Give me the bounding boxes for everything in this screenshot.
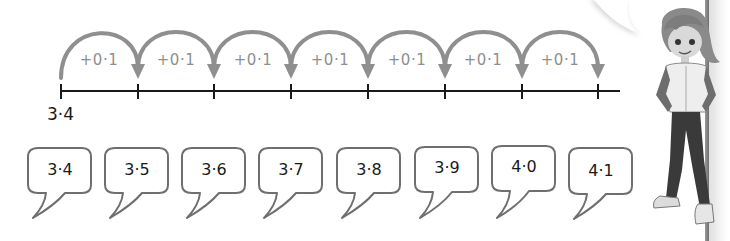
speech-bubble: 3·9 — [416, 146, 478, 192]
counting-diagram: +0·1 +0·1 +0·1 +0·1 +0·1 +0·1 +0·1 3·4 3… — [0, 0, 730, 241]
bubble-value: 3·4 — [29, 160, 91, 179]
bubble-value: 3·6 — [183, 160, 245, 179]
girl-character-icon — [640, 0, 730, 241]
bubble-value: 3·8 — [338, 160, 400, 179]
bubble-value: 3·7 — [260, 160, 322, 179]
speech-bubble: 4·0 — [493, 145, 555, 191]
speech-bubble: 3·5 — [106, 148, 168, 194]
bubble-value: 3·9 — [416, 158, 478, 177]
speech-bubble: 3·4 — [29, 148, 91, 194]
speech-bubble: 3·7 — [260, 148, 322, 194]
bubble-value: 4·0 — [493, 157, 555, 176]
speech-bubbles — [0, 0, 730, 241]
speech-bubble: 4·1 — [570, 149, 632, 195]
speech-bubble: 3·6 — [183, 148, 245, 194]
bubble-value: 3·5 — [106, 160, 168, 179]
bubble-value: 4·1 — [570, 161, 632, 180]
speech-bubble: 3·8 — [338, 148, 400, 194]
